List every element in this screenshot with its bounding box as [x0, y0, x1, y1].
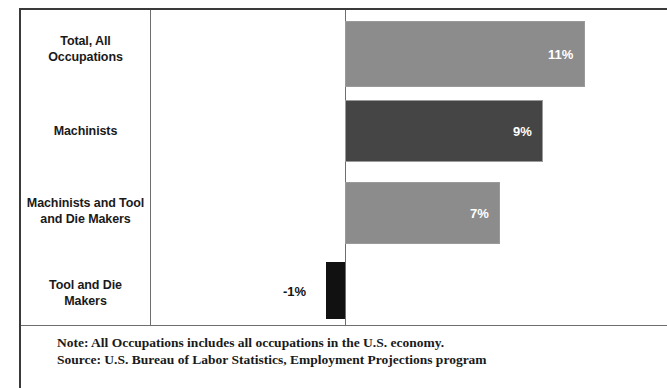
plot-area: 11% 9% 7% -1%	[151, 10, 667, 325]
category-label-line: Makers	[21, 293, 150, 309]
category-label-machinists: Machinists	[21, 123, 150, 139]
bar-chart-figure: Total, All Occupations Machinists Machin…	[0, 0, 667, 388]
category-label-line: and Die Makers	[21, 211, 150, 227]
footer-note-block: Note: All Occupations includes all occup…	[57, 334, 657, 368]
category-label-total-all-occupations: Total, All Occupations	[21, 33, 150, 65]
category-label-tool-and-die-makers: Tool and Die Makers	[21, 277, 150, 309]
bar-value-total-all-occupations: 11%	[548, 48, 573, 61]
category-label-column: Total, All Occupations Machinists Machin…	[21, 10, 150, 325]
category-label-line: Occupations	[21, 49, 150, 65]
footer-source: Source: U.S. Bureau of Labor Statistics,…	[57, 351, 657, 368]
bar-tool-and-die-makers[interactable]	[326, 262, 345, 319]
footer-divider	[21, 325, 667, 326]
category-label-line: Tool and Die	[21, 277, 150, 293]
footer-note: Note: All Occupations includes all occup…	[57, 334, 657, 351]
bar-value-machinists: 9%	[513, 125, 532, 138]
category-label-line: Total, All	[21, 33, 150, 49]
bar-value-machinists-and-tool-and-die-makers: 7%	[470, 207, 489, 220]
bar-value-tool-and-die-makers: -1%	[283, 285, 306, 298]
category-label-machinists-and-tool-and-die-makers: Machinists and Tool and Die Makers	[21, 195, 150, 227]
category-label-line: Machinists	[21, 123, 150, 139]
category-label-line: Machinists and Tool	[21, 195, 150, 211]
